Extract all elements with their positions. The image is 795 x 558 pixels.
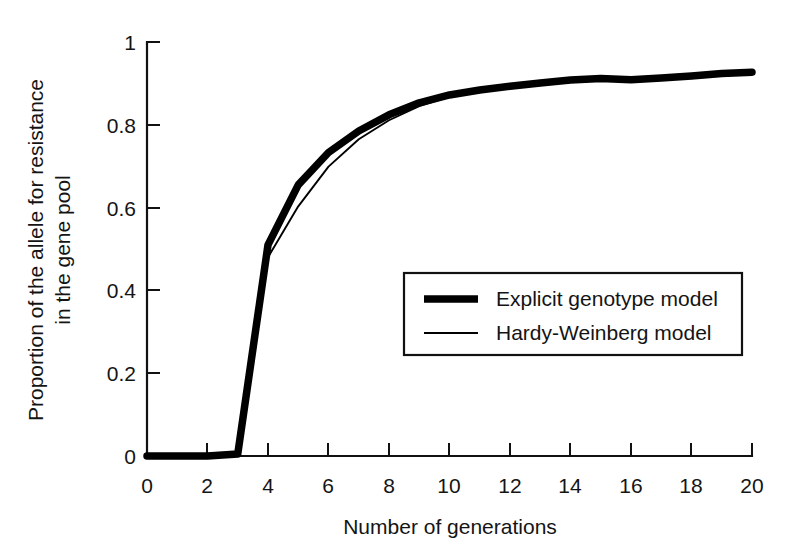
chart-legend: Explicit genotype model Hardy-Weinberg m…	[404, 273, 742, 355]
y-axis-ticks: 1 0.8 0.6 0.4 0.2 0	[107, 31, 160, 468]
y-tick-label-0-8: 0.8	[107, 114, 136, 137]
x-tick-label-4: 4	[262, 474, 274, 497]
y-axis-title-line1: Proportion of the allele for resistance	[24, 79, 47, 421]
y-tick-label-0: 0	[124, 445, 136, 468]
y-tick-label-0-2: 0.2	[107, 362, 136, 385]
x-tick-label-8: 8	[383, 474, 395, 497]
x-tick-label-16: 16	[619, 474, 642, 497]
x-tick-label-20: 20	[740, 474, 763, 497]
series-line-explicit-genotype	[147, 72, 752, 456]
y-axis-title-line2: in the gene pool	[51, 175, 74, 324]
y-tick-label-0-6: 0.6	[107, 197, 136, 220]
x-tick-label-18: 18	[679, 474, 702, 497]
legend-label-explicit-genotype: Explicit genotype model	[496, 287, 718, 310]
x-axis-title: Number of generations	[343, 515, 557, 538]
y-tick-label-1: 1	[124, 31, 136, 54]
x-tick-label-10: 10	[437, 474, 460, 497]
x-tick-label-2: 2	[201, 474, 213, 497]
x-tick-label-12: 12	[498, 474, 521, 497]
y-axis-title: Proportion of the allele for resistance …	[24, 79, 74, 421]
y-tick-label-0-4: 0.4	[107, 279, 137, 302]
legend-label-hardy-weinberg: Hardy-Weinberg model	[496, 321, 712, 344]
x-tick-label-6: 6	[322, 474, 334, 497]
line-chart-svg: Proportion of the allele for resistance …	[0, 0, 795, 558]
chart-figure: Proportion of the allele for resistance …	[0, 0, 795, 558]
x-tick-label-14: 14	[558, 474, 582, 497]
series-line-hardy-weinberg	[147, 72, 752, 456]
x-tick-label-0: 0	[141, 474, 153, 497]
